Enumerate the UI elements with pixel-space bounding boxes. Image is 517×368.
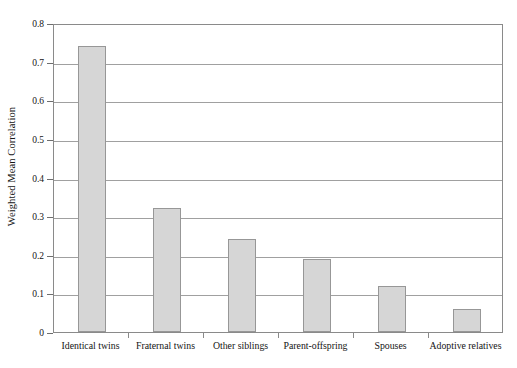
y-tick: 0.3 bbox=[0, 211, 53, 223]
bar-chart-figure: Weighted Mean Correlation 0.80.70.60.50.… bbox=[0, 0, 517, 368]
y-tick-label: 0.6 bbox=[32, 95, 44, 107]
x-axis-labels: Identical twinsFraternal twinsOther sibl… bbox=[53, 338, 503, 358]
y-tick: 0.1 bbox=[0, 288, 53, 300]
y-tick: 0.8 bbox=[0, 18, 53, 30]
bar-2 bbox=[228, 239, 256, 332]
plot-area bbox=[53, 24, 503, 333]
y-tick: 0.2 bbox=[0, 250, 53, 262]
gridline bbox=[54, 218, 502, 219]
y-tick-label: 0.3 bbox=[32, 211, 44, 223]
y-axis-ticks: 0.80.70.60.50.40.30.20.10 bbox=[0, 0, 53, 368]
gridline bbox=[54, 64, 502, 65]
x-axis-label-5: Adoptive relatives bbox=[416, 338, 515, 354]
y-tick-label: 0.4 bbox=[32, 173, 44, 185]
bar-5 bbox=[453, 309, 481, 332]
y-tick-label: 0.8 bbox=[32, 18, 44, 30]
gridline bbox=[54, 295, 502, 296]
y-tick-label: 0.5 bbox=[32, 134, 44, 146]
y-tick: 0.4 bbox=[0, 173, 53, 185]
gridline bbox=[54, 102, 502, 103]
bar-4 bbox=[378, 286, 406, 332]
bar-1 bbox=[153, 208, 181, 332]
y-tick-label: 0.1 bbox=[32, 288, 44, 300]
gridline bbox=[54, 141, 502, 142]
y-tick: 0.5 bbox=[0, 134, 53, 146]
gridline bbox=[54, 257, 502, 258]
gridline bbox=[54, 180, 502, 181]
y-tick-label: 0.2 bbox=[32, 250, 44, 262]
y-tick: 0.6 bbox=[0, 95, 53, 107]
y-tick-label: 0.7 bbox=[32, 57, 44, 69]
y-tick: 0.7 bbox=[0, 57, 53, 69]
bar-3 bbox=[303, 259, 331, 332]
bar-0 bbox=[78, 46, 106, 332]
